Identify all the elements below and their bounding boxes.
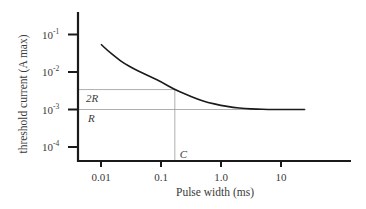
y-axis-ticks: 10-110-210-310-4 <box>42 27 78 154</box>
y-tick-label: 10-3 <box>42 102 59 116</box>
two-rheobase-label: 2R <box>86 92 99 104</box>
y-tick-label: 10-2 <box>42 64 59 78</box>
axes <box>78 12 351 161</box>
chronaxie-label: C <box>180 148 188 160</box>
y-axis-title: threshold current (A max) <box>17 34 30 153</box>
x-axis-ticks: 0.010.11.010 <box>91 161 287 183</box>
x-tick-label: 10 <box>276 171 288 183</box>
x-tick-label: 0.01 <box>91 171 110 183</box>
x-tick-label: 1.0 <box>214 171 228 183</box>
strength-duration-curve <box>101 44 305 109</box>
y-tick-label: 10-1 <box>42 27 59 41</box>
x-tick-label: 0.1 <box>154 171 168 183</box>
y-tick-label: 10-4 <box>42 139 59 153</box>
strength-duration-chart: 0.010.11.010 10-110-210-310-4 2R R C Pul… <box>0 0 366 209</box>
rheobase-label: R <box>87 112 95 124</box>
x-axis-title: Pulse width (ms) <box>176 186 254 199</box>
